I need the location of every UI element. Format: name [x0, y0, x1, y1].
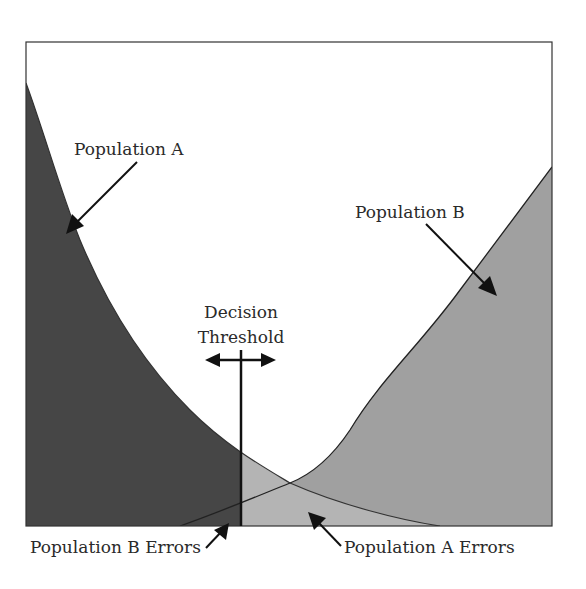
decision-threshold-diagram: Population A Population B Decision Thres…: [0, 0, 586, 589]
population-a-correct-area: [26, 42, 241, 526]
decision-threshold-label-line1: Decision: [204, 302, 278, 322]
population-b-errors-arrow-icon: [206, 523, 229, 548]
population-b-errors-label: Population B Errors: [30, 537, 201, 557]
population-b-label: Population B: [355, 202, 465, 222]
population-a-label: Population A: [74, 139, 184, 159]
population-a-errors-label: Population A Errors: [344, 537, 515, 557]
decision-threshold-label-line2: Threshold: [198, 327, 285, 347]
population-a-arrow-icon: [66, 162, 137, 234]
